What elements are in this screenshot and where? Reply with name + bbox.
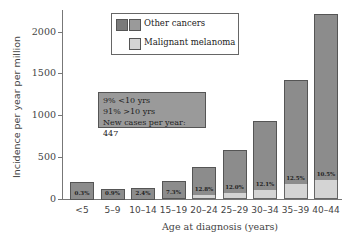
legend-item-other: Other cancers (112, 18, 236, 32)
bar-percent-label: 2.4% (131, 190, 155, 196)
bar-segment-melanoma (192, 195, 216, 199)
y-tick-label: 0 (20, 193, 56, 204)
y-tick (58, 32, 62, 33)
bar-percent-label: 12.1% (253, 181, 277, 187)
legend: Other cancers Malignant melanoma (111, 13, 239, 55)
y-tick-label: 1500 (20, 67, 56, 78)
bar-percent-label: 0.9% (101, 190, 125, 196)
bar-segment-melanoma (314, 180, 338, 199)
y-tick (58, 115, 62, 116)
bar-segment-other (314, 14, 338, 181)
y-tick (58, 157, 62, 158)
bar-percent-label: 12.8% (192, 186, 216, 192)
x-axis-title: Age at diagnosis (years) (100, 221, 340, 232)
annotation-line: New cases per year: 447 (103, 117, 201, 139)
y-axis-line (62, 10, 63, 200)
legend-swatch-melanoma (129, 38, 141, 50)
bar-segment-other (284, 80, 308, 185)
annotation-box: 9% <10 yrs 91% >10 yrs New cases per yea… (98, 92, 206, 128)
bar-segment-melanoma (284, 184, 308, 199)
y-tick (58, 199, 62, 200)
legend-label-melanoma: Malignant melanoma (144, 37, 235, 47)
y-tick-label: 1000 (20, 109, 56, 120)
y-tick-label: 2000 (20, 26, 56, 37)
bar-percent-label: 0.3% (70, 190, 94, 196)
bar-segment-melanoma (253, 190, 277, 199)
annotation-line: 91% >10 yrs (103, 106, 201, 117)
legend-label-other: Other cancers (144, 18, 205, 28)
legend-item-melanoma: Malignant melanoma (112, 37, 236, 51)
legend-swatch-other (129, 19, 141, 31)
bar-percent-label: 12.0% (223, 184, 247, 190)
bar-percent-label: 7.3% (162, 189, 186, 195)
x-tick-label: 40–44 (306, 205, 346, 215)
y-tick (58, 73, 62, 74)
legend-swatch-dark (116, 19, 128, 31)
bar-percent-label: 12.5% (284, 175, 308, 181)
y-axis-title: Incidence per year per million (11, 27, 25, 187)
annotation-line: 9% <10 yrs (103, 95, 201, 106)
bar-chart: Incidence per year per million 0 500 100… (0, 0, 346, 242)
bar-segment-melanoma (223, 193, 247, 199)
y-tick-label: 500 (20, 151, 56, 162)
bar-percent-label: 10.5% (314, 171, 338, 177)
